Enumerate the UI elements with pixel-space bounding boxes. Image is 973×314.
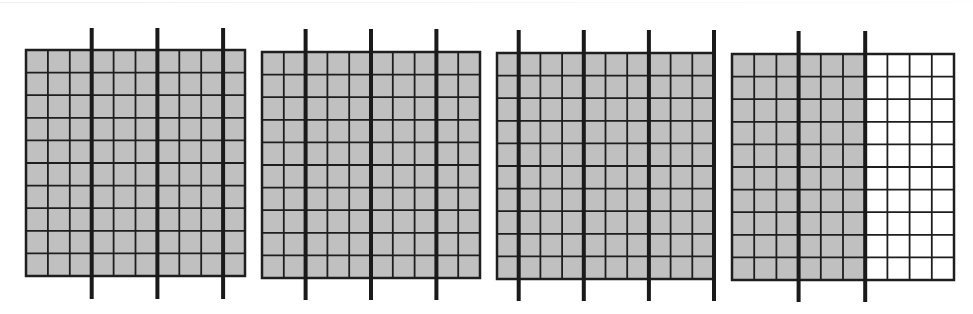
scan-artifact-line <box>0 2 973 3</box>
hundredths-grid-3 <box>497 30 714 301</box>
hundredths-grid-figure <box>0 0 973 314</box>
hundredths-grid-1 <box>26 28 245 299</box>
hundredths-grid-4 <box>732 31 954 302</box>
grid-diagram <box>0 0 973 314</box>
hundredths-grid-2 <box>262 29 480 300</box>
